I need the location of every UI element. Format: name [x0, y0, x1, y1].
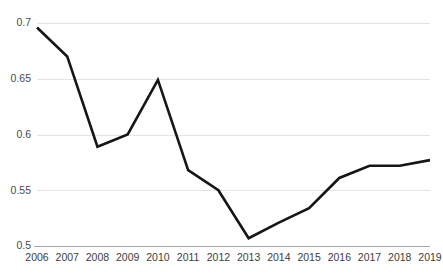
y-tick-label: 0.6	[16, 128, 31, 140]
x-tick-label: 2016	[328, 251, 352, 263]
y-tick-label: 0.7	[16, 16, 31, 28]
x-tick-label: 2006	[25, 251, 49, 263]
x-tick-label: 2011	[177, 251, 200, 263]
x-tick-label: 2010	[146, 251, 170, 263]
line-chart: 0.50.550.60.650.7 2006200720082009201020…	[0, 0, 443, 279]
x-tick-label: 2015	[297, 251, 321, 263]
y-tick-label: 0.55	[11, 184, 32, 196]
x-tick-label: 2009	[116, 251, 140, 263]
x-tick-label: 2012	[207, 251, 231, 263]
x-tick-label: 2018	[388, 251, 412, 263]
x-tick-label: 2008	[86, 251, 110, 263]
x-tick-label: 2007	[56, 251, 80, 263]
chart-canvas: 0.50.550.60.650.7 2006200720082009201020…	[0, 0, 443, 279]
x-tick-label: 2014	[267, 251, 291, 263]
x-tick-label: 2017	[358, 251, 382, 263]
x-tick-label: 2019	[418, 251, 442, 263]
x-tick-label: 2013	[237, 251, 261, 263]
chart-background	[0, 0, 443, 279]
y-tick-label: 0.65	[11, 72, 32, 84]
y-tick-label: 0.5	[16, 239, 31, 251]
